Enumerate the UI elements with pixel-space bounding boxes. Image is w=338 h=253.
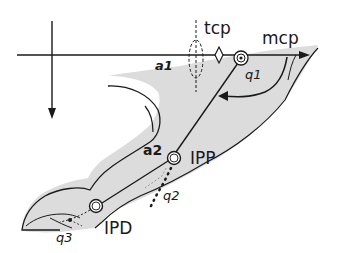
ipd-label: IPD (104, 220, 132, 237)
ipp-label: IPP (190, 150, 216, 167)
a1-label: a1 (155, 59, 173, 72)
ipp-joint-icon (168, 152, 181, 165)
vertical-axis-arrowhead (48, 108, 56, 119)
mcp-joint-dot (239, 56, 242, 59)
q3-label: q3 (56, 231, 73, 244)
tcp-label: tcp (204, 20, 231, 37)
q2-label: q2 (163, 189, 180, 202)
finger-kinematic-diagram: tcp mcp a1 q1 a2 IPP q2 IPD q3 (0, 0, 338, 253)
q1-label: q1 (245, 68, 262, 81)
finger-silhouette (22, 45, 318, 232)
ipd-joint-icon (90, 200, 103, 213)
a2-label: a2 (143, 143, 162, 157)
mcp-label: mcp (262, 30, 299, 47)
